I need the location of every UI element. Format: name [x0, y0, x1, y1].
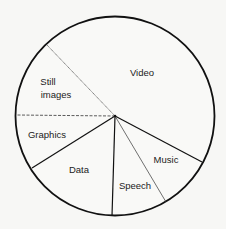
- pie-chart: Video Music Speech Data Graphics Still i…: [0, 0, 226, 229]
- label-speech: Speech: [119, 180, 151, 191]
- label-music: Music: [154, 154, 179, 165]
- label-still-line2: images: [41, 89, 72, 100]
- pie-center: [114, 115, 117, 118]
- label-video: Video: [130, 67, 154, 78]
- label-graphics: Graphics: [28, 129, 66, 140]
- label-data: Data: [69, 164, 90, 175]
- label-still-line1: Still: [40, 76, 55, 87]
